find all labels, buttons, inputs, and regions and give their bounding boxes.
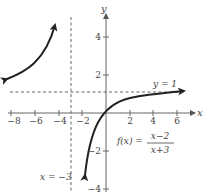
y-tick-label: −2	[88, 146, 101, 156]
x-tick-label: −8	[7, 116, 21, 126]
x-tick-label: −4	[53, 116, 67, 126]
function-denominator: x+3	[151, 145, 170, 155]
x-tick-label: −2	[76, 116, 89, 126]
x-tick-label: −6	[29, 116, 43, 126]
horizontal-asymptote-label: y = 1	[152, 79, 177, 89]
vertical-asymptote-label: x = −3	[40, 172, 72, 182]
x-axis-label: x	[197, 107, 203, 118]
y-tick-label: −4	[88, 184, 102, 192]
x-tick-label: 6	[174, 116, 180, 126]
left-branch	[7, 25, 55, 79]
y-tick-label: 4	[95, 32, 101, 42]
graph-canvas: −8 −6 −4 −2 2 4 6 4 2 −2 −4 x y y = 1 x …	[0, 0, 207, 192]
x-tick-label: 2	[127, 116, 133, 126]
function-label: f(x) =	[116, 136, 143, 146]
function-numerator: x−2	[151, 131, 170, 141]
graph: −8 −6 −4 −2 2 4 6 4 2 −2 −4 x y y = 1 x …	[0, 0, 207, 192]
y-axis-label: y	[100, 3, 107, 14]
x-tick-label: 4	[150, 116, 156, 126]
y-tick-label: 2	[95, 70, 101, 80]
